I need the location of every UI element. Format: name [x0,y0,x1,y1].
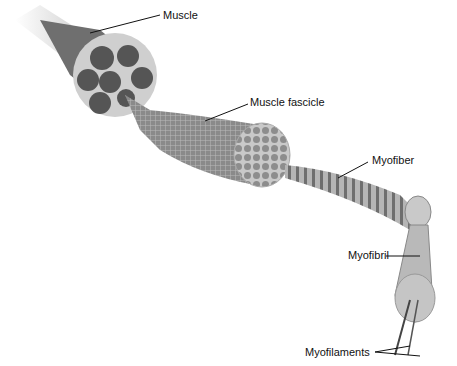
muscle-cross-section [73,33,157,117]
leader-fascicle [205,104,248,121]
label-myofilaments: Myofilaments [305,346,370,358]
leader-muscle [90,15,160,33]
leader-myofilaments-2 [375,352,420,356]
fascicle-cross-section [234,123,290,187]
leader-myofilaments-1 [375,346,410,352]
myofiber-cross-section [405,196,431,228]
label-muscle-fascicle: Muscle fascicle [250,96,325,108]
label-myofiber: Myofiber [372,154,414,166]
myofiber-body [285,165,425,230]
label-myofibril: Myofibril [348,249,389,261]
label-muscle: Muscle [163,9,198,21]
muscle-diagram [0,0,457,366]
leader-myofiber [338,162,368,178]
